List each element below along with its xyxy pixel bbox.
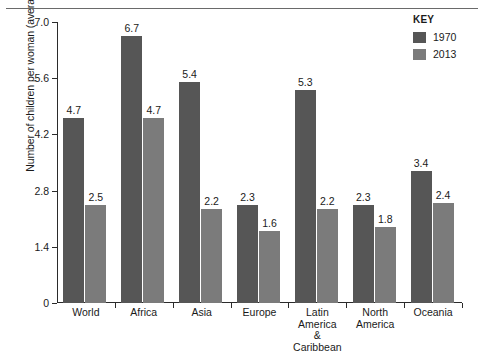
- legend-label-1970: 1970: [433, 31, 456, 43]
- y-axis-tick-label: 5.6: [34, 72, 49, 84]
- bar-value-label: 4.7: [140, 104, 167, 116]
- bar-2013-latin-america-caribbean: 2.2: [317, 209, 338, 303]
- y-axis-line: [57, 22, 58, 303]
- bar-value-label: 2.5: [82, 191, 109, 203]
- y-axis-tick: [52, 191, 57, 192]
- y-axis-tick-label: 4.2: [34, 128, 49, 140]
- bar-group: 5.42.2: [179, 22, 222, 303]
- x-axis-category-label: Oceania: [404, 307, 462, 319]
- bar-2013-north-america: 1.8: [375, 227, 396, 303]
- y-axis-tick-label: 1.4: [34, 241, 49, 253]
- bar-2013-africa: 4.7: [143, 118, 164, 303]
- bar-value-label: 1.6: [256, 217, 283, 229]
- x-axis-tick: [462, 303, 463, 308]
- bar-value-label: 2.2: [198, 195, 225, 207]
- bar-2013-europe: 1.6: [259, 231, 280, 303]
- bar-group: 2.31.6: [237, 22, 280, 303]
- top-divider-rule: [6, 8, 478, 9]
- bar-1970-oceania: 3.4: [411, 171, 432, 303]
- x-axis-category-label: World: [57, 307, 115, 319]
- bar-value-label: 2.2: [314, 195, 341, 207]
- x-axis-category-label: Asia: [173, 307, 231, 319]
- x-axis-category-label: Europe: [231, 307, 289, 319]
- bar-2013-asia: 2.2: [201, 209, 222, 303]
- bar-value-label: 5.3: [292, 76, 319, 88]
- bar-group: 4.72.5: [63, 22, 106, 303]
- y-axis-tick: [52, 247, 57, 248]
- y-axis-title: Number of children per woman (average): [24, 0, 36, 188]
- bar-1970-asia: 5.4: [179, 82, 200, 303]
- bar-value-label: 5.4: [176, 68, 203, 80]
- bar-value-label: 3.4: [408, 157, 435, 169]
- legend-swatch-2013-icon: [413, 49, 426, 60]
- legend-title: KEY: [413, 14, 456, 25]
- y-axis-tick-label: 2.8: [34, 185, 49, 197]
- bar-group: 2.31.8: [353, 22, 396, 303]
- y-axis-tick-label: 0: [43, 297, 49, 309]
- x-axis-category-label: Latin America & Caribbean: [288, 307, 346, 353]
- legend-label-2013: 2013: [433, 48, 456, 60]
- x-axis-category-label: North America: [346, 307, 404, 330]
- x-axis-category-label: Africa: [115, 307, 173, 319]
- bar-2013-oceania: 2.4: [433, 203, 454, 303]
- bar-value-label: 4.7: [60, 104, 87, 116]
- bar-value-label: 6.7: [118, 22, 145, 34]
- y-axis-tick: [52, 78, 57, 79]
- bar-1970-world: 4.7: [63, 118, 84, 303]
- y-axis-tick: [52, 22, 57, 23]
- bar-value-label: 2.3: [350, 191, 377, 203]
- bar-value-label: 2.3: [234, 191, 261, 203]
- bar-value-label: 2.4: [430, 189, 457, 201]
- bar-1970-europe: 2.3: [237, 205, 258, 303]
- bar-group: 5.32.2: [295, 22, 338, 303]
- bar-1970-africa: 6.7: [121, 36, 142, 303]
- legend-swatch-1970-icon: [413, 32, 426, 43]
- y-axis-tick: [52, 303, 57, 304]
- plot-area: 01.42.84.25.67.04.72.5World6.74.7Africa5…: [57, 22, 462, 303]
- bar-value-label: 1.8: [372, 213, 399, 225]
- bar-group: 6.74.7: [121, 22, 164, 303]
- legend: KEY 1970 2013: [413, 14, 456, 65]
- bar-1970-latin-america-caribbean: 5.3: [295, 90, 316, 303]
- legend-item-1970: 1970: [413, 31, 456, 43]
- bar-2013-world: 2.5: [85, 205, 106, 303]
- y-axis-tick: [52, 134, 57, 135]
- legend-item-2013: 2013: [413, 48, 456, 60]
- bar-1970-north-america: 2.3: [353, 205, 374, 303]
- y-axis-tick-label: 7.0: [34, 16, 49, 28]
